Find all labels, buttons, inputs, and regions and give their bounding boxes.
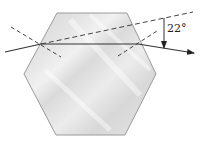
incident-ray xyxy=(5,44,41,52)
exit-ray-arrow xyxy=(138,44,194,53)
hexagonal-ice-crystal xyxy=(24,13,156,135)
deviation-angle-label: 22° xyxy=(167,23,187,34)
